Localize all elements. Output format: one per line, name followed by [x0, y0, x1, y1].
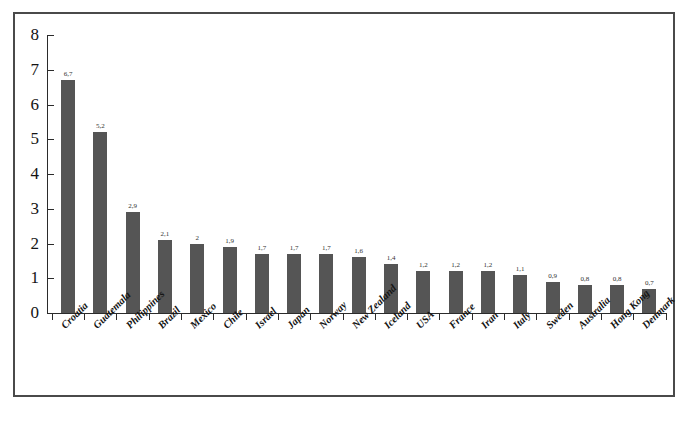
y-tick-label: 4 [15, 165, 39, 182]
bar [449, 271, 463, 313]
bar-value-label: 1,4 [376, 254, 406, 262]
bar-value-label: 2,9 [118, 202, 148, 210]
bar [352, 257, 366, 313]
x-tick-mark [310, 313, 311, 320]
bar [319, 254, 333, 313]
y-tick-label: 3 [15, 200, 39, 217]
x-tick-mark [149, 313, 150, 320]
bar-value-label: 1,1 [505, 265, 535, 273]
bar-value-label: 1,7 [247, 244, 277, 252]
bar-value-label: 1,2 [473, 261, 503, 269]
x-tick-mark [116, 313, 117, 320]
y-tick-label: 0 [15, 304, 39, 321]
chart-frame: 876543210 6,75,22,92,121,91,71,71,71,61,… [13, 12, 675, 397]
x-tick-mark [472, 313, 473, 320]
x-tick-mark [504, 313, 505, 320]
y-tick-mark [47, 174, 54, 175]
y-tick-mark [47, 244, 54, 245]
y-tick-mark [47, 105, 54, 106]
x-tick-mark [84, 313, 85, 320]
bar-value-label: 2 [182, 234, 212, 242]
bar [481, 271, 495, 313]
x-tick-mark [375, 313, 376, 320]
x-tick-mark [633, 313, 634, 320]
bar [255, 254, 269, 313]
y-tick-mark [47, 313, 54, 314]
x-tick-mark [52, 313, 53, 320]
x-tick-mark [666, 313, 667, 320]
bar-value-label: 1,6 [344, 247, 374, 255]
x-tick-mark [213, 313, 214, 320]
x-tick-mark [343, 313, 344, 320]
bar [287, 254, 301, 313]
bar [93, 132, 107, 313]
bar [223, 247, 237, 313]
x-tick-mark [601, 313, 602, 320]
x-tick-mark [407, 313, 408, 320]
plot-area: 876543210 6,75,22,92,121,91,71,71,71,61,… [15, 14, 673, 395]
bar-value-label: 0,8 [602, 275, 632, 283]
y-tick-mark [47, 139, 54, 140]
bar-value-label: 5,2 [85, 122, 115, 130]
bar-value-label: 1,2 [441, 261, 471, 269]
bar-value-label: 2,1 [150, 230, 180, 238]
x-tick-mark [278, 313, 279, 320]
bar-value-label: 1,7 [279, 244, 309, 252]
y-tick-label: 5 [15, 130, 39, 147]
y-tick-label: 7 [15, 61, 39, 78]
y-tick-label: 8 [15, 26, 39, 43]
bar [513, 275, 527, 313]
x-tick-mark [181, 313, 182, 320]
bar-value-label: 0,8 [570, 275, 600, 283]
bar [190, 244, 204, 314]
x-tick-mark [569, 313, 570, 320]
x-tick-mark [439, 313, 440, 320]
bar [416, 271, 430, 313]
bar-value-label: 1,7 [311, 244, 341, 252]
bar-value-label: 1,9 [215, 237, 245, 245]
y-tick-mark [47, 35, 54, 36]
x-tick-mark [246, 313, 247, 320]
bar-value-label: 0,9 [538, 272, 568, 280]
bar [61, 80, 75, 313]
bar-value-label: 6,7 [53, 70, 83, 78]
y-tick-label: 1 [15, 269, 39, 286]
bar-value-label: 0,7 [634, 279, 664, 287]
y-tick-mark [47, 209, 54, 210]
y-tick-mark [47, 278, 54, 279]
x-tick-mark [536, 313, 537, 320]
y-tick-label: 6 [15, 96, 39, 113]
y-tick-label: 2 [15, 235, 39, 252]
bar-value-label: 1,2 [408, 261, 438, 269]
